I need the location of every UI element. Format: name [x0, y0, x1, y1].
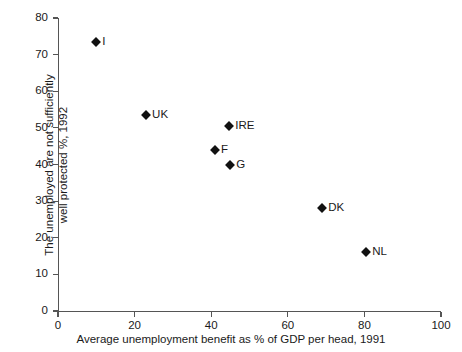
x-tick-80 — [364, 312, 365, 317]
data-point-i[interactable] — [91, 37, 101, 47]
x-tick-label-100: 100 — [421, 320, 461, 332]
data-point-label-i: I — [102, 36, 105, 48]
data-point-f[interactable] — [210, 145, 220, 155]
x-tick-label-20: 20 — [115, 320, 155, 332]
x-tick-label-40: 40 — [191, 320, 231, 332]
data-point-label-nl: NL — [372, 246, 387, 258]
x-tick-label-60: 60 — [268, 320, 308, 332]
data-point-dk[interactable] — [317, 203, 327, 213]
data-point-nl[interactable] — [361, 247, 371, 257]
x-axis-title: Average unemployment benefit as % of GDP… — [0, 334, 462, 346]
y-axis-title-line-2: well protected %, 1992 — [56, 15, 70, 315]
x-axis-line — [58, 311, 441, 312]
data-point-g[interactable] — [225, 160, 235, 170]
x-tick-20 — [134, 312, 135, 317]
x-tick-40 — [211, 312, 212, 317]
y-axis-title: The unemployed are not sufficiently well… — [42, 15, 70, 315]
data-point-uk[interactable] — [141, 110, 151, 120]
x-tick-label-80: 80 — [344, 320, 384, 332]
data-point-label-f: F — [221, 144, 228, 156]
data-point-label-g: G — [236, 159, 245, 171]
x-tick-60 — [287, 312, 288, 317]
data-point-label-dk: DK — [328, 202, 344, 214]
x-tick-label-0: 0 — [38, 320, 78, 332]
x-tick-100 — [440, 312, 441, 317]
data-point-ire[interactable] — [224, 121, 234, 131]
data-point-label-ire: IRE — [235, 120, 254, 132]
scatter-chart-figure: 01020304050607080 020406080100 IUKIREFGD… — [0, 0, 462, 352]
y-axis-title-line-1: The unemployed are not sufficiently — [42, 15, 56, 315]
data-point-label-uk: UK — [152, 109, 168, 121]
